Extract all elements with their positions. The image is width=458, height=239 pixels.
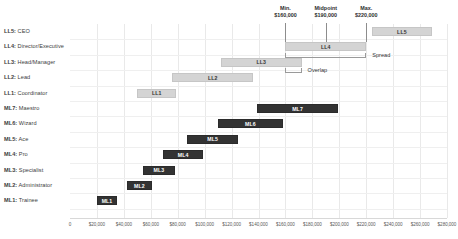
bar-ll1[interactable]: LL1 (137, 89, 176, 98)
row-label-ll3: LL3: Head/Manager (4, 55, 68, 70)
marker-title: Max. (340, 5, 392, 12)
x-tick-label: $160,000 (276, 222, 295, 227)
bar-label: LL2 (173, 74, 252, 81)
bar-ml7[interactable]: ML7 (257, 104, 338, 113)
salary-band-chart: Min.$160,000Midpoint$190,000Max.$220,000… (0, 0, 458, 239)
chart-row: ML7: MaestroML7 (0, 101, 458, 116)
chart-row: LL5: CEOLL5 (0, 24, 458, 39)
row-label-code: LL2: (4, 74, 16, 80)
bar-ml1[interactable]: ML1 (97, 196, 117, 205)
marker-value: $220,000 (340, 12, 392, 19)
row-label-ml5: ML5: Ace (4, 132, 68, 147)
row-label-ll4: LL4: Director/Executive (4, 39, 68, 54)
bar-ll4[interactable]: LL4 (285, 42, 366, 51)
x-tick-label: $60,000 (143, 222, 159, 227)
bar-ml6[interactable]: ML6 (218, 119, 283, 128)
x-tick-label: $20,000 (89, 222, 105, 227)
bar-ml4[interactable]: ML4 (163, 150, 203, 159)
bracket-spread (285, 53, 366, 58)
bar-label: ML6 (219, 120, 282, 127)
bar-ll3[interactable]: LL3 (221, 58, 302, 67)
row-label-code: ML3: (4, 167, 17, 173)
annotation-label-overlap: Overlap (308, 67, 328, 73)
bar-ll2[interactable]: LL2 (172, 73, 253, 82)
bar-label: ML1 (98, 197, 116, 204)
row-label-code: LL5: (4, 28, 16, 34)
row-label-ml4: ML4: Pro (4, 147, 68, 162)
row-label-code: LL4: (4, 43, 16, 49)
row-label-code: LL1: (4, 90, 16, 96)
bar-label: ML2 (128, 182, 152, 189)
row-label-ml1: ML1: Trainee (4, 193, 68, 208)
x-tick-label: $100,000 (195, 222, 214, 227)
gridline-horizontal (70, 209, 447, 210)
bar-label: ML4 (164, 151, 202, 158)
x-tick-label: $240,000 (384, 222, 403, 227)
bar-label: ML7 (258, 105, 337, 112)
bracket-overlap (285, 68, 301, 73)
annotation-label-spread: Spread (372, 52, 390, 58)
bar-label: ML5 (188, 136, 237, 143)
bar-label: ML3 (144, 167, 174, 174)
x-tick-label: $40,000 (116, 222, 132, 227)
row-label-code: ML4: (4, 151, 17, 157)
chart-row: LL2: LeadLL2 (0, 70, 458, 85)
chart-row: LL1: CoordinatorLL1 (0, 86, 458, 101)
bar-ll5[interactable]: LL5 (372, 27, 433, 36)
x-tick-label: $260,000 (411, 222, 430, 227)
x-tick-label: $180,000 (303, 222, 322, 227)
row-label-code: ML7: (4, 105, 17, 111)
bar-ml5[interactable]: ML5 (187, 135, 238, 144)
chart-row: ML4: ProML4 (0, 147, 458, 162)
row-label-code: ML5: (4, 136, 17, 142)
row-label-ml7: ML7: Maestro (4, 101, 68, 116)
row-label-code: ML1: (4, 197, 17, 203)
row-label-ll5: LL5: CEO (4, 24, 68, 39)
x-tick-label: $220,000 (357, 222, 376, 227)
x-tick-label: $80,000 (170, 222, 186, 227)
chart-row: ML1: TraineeML1 (0, 193, 458, 208)
x-tick-label: $120,000 (222, 222, 241, 227)
row-label-ml3: ML3: Specialist (4, 163, 68, 178)
x-tick-label: $200,000 (330, 222, 349, 227)
row-label-ml2: ML2: Administrator (4, 178, 68, 193)
row-label-code: ML2: (4, 182, 17, 188)
bar-label: LL4 (286, 43, 365, 50)
x-tick-label: 0 (69, 222, 72, 227)
row-label-ll2: LL2: Lead (4, 70, 68, 85)
chart-row: ML5: AceML5 (0, 132, 458, 147)
chart-row: ML6: WizardML6 (0, 116, 458, 131)
chart-row: ML2: AdministratorML2 (0, 178, 458, 193)
bar-label: LL3 (222, 59, 301, 66)
chart-row: ML3: SpecialistML3 (0, 163, 458, 178)
x-axis-baseline (70, 218, 447, 219)
bar-ml3[interactable]: ML3 (143, 166, 175, 175)
bar-ml2[interactable]: ML2 (127, 181, 153, 190)
bar-label: LL1 (138, 90, 175, 97)
row-label-code: ML6: (4, 120, 17, 126)
row-label-code: LL3: (4, 59, 16, 65)
marker-label-max: Max.$220,000 (340, 5, 392, 19)
x-tick-label: $140,000 (249, 222, 268, 227)
row-label-ml6: ML6: Wizard (4, 116, 68, 131)
bar-label: LL5 (373, 28, 432, 35)
row-label-ll1: LL1: Coordinator (4, 86, 68, 101)
x-tick-label: $280,000 (438, 222, 457, 227)
